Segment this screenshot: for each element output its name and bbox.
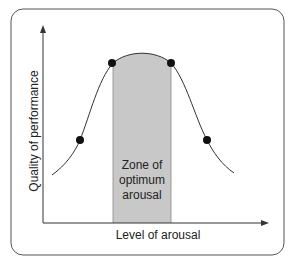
y-axis-arrow-icon bbox=[40, 25, 46, 33]
y-axis-label: Quality of performance bbox=[27, 61, 41, 201]
zone-label: Zone of optimum arousal bbox=[113, 158, 171, 203]
zone-label-line2: optimum bbox=[113, 173, 171, 188]
diagram-canvas bbox=[0, 0, 293, 265]
curve-point-high bbox=[203, 136, 211, 144]
zone-label-line3: arousal bbox=[113, 188, 171, 203]
curve-point-optimum-end bbox=[167, 59, 175, 67]
curve-point-optimum-start bbox=[108, 59, 116, 67]
curve-point-low bbox=[76, 136, 84, 144]
zone-label-line1: Zone of bbox=[113, 158, 171, 173]
x-axis-arrow-icon bbox=[261, 220, 269, 226]
x-axis-label: Level of arousal bbox=[43, 228, 273, 242]
